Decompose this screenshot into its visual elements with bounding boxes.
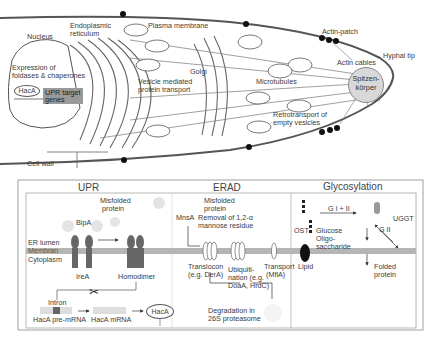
translocon-label-2: (e.g. DerA) (188, 271, 223, 279)
ost-label: OST (294, 227, 309, 235)
membrane-band (26, 248, 416, 254)
intron-label: Intron (48, 299, 66, 307)
nucleus-outline (8, 40, 80, 128)
degradation-label-2: 26S proteasome (208, 315, 261, 323)
actin-cables-label: Actin cables (337, 59, 376, 67)
g2-label: G II (379, 226, 391, 234)
removal-label-2: mannose residue (198, 222, 253, 230)
nucleus-label: Nucleus (27, 33, 53, 41)
er-label-2: reticulum (70, 30, 99, 38)
upr-target-genes-box: UPR target genes (43, 88, 83, 104)
upr-title: UPR (78, 182, 99, 193)
haca-pre-mrna-label: HacA pre-mRNA (33, 316, 86, 324)
oligosaccharide-label-2: saccharide (316, 243, 351, 251)
plasma-membrane-label: Plasma membrane (148, 22, 208, 30)
spitz-label-2: körper (349, 83, 383, 92)
upr-target-label-2: genes (45, 96, 81, 103)
glycosylation-title: Glycosylation (323, 181, 382, 192)
golgi-outline (194, 36, 227, 136)
actin-patch-label: Actin-patch (322, 28, 358, 36)
spitzenkoerper: Spitzen- körper (348, 67, 384, 103)
diagram-artwork: ✂ (0, 0, 432, 340)
haca-nucleus-oval: HacA (14, 85, 40, 97)
lipid-label: Lipid (298, 263, 313, 271)
cell-wall-label: Cell wall (27, 160, 54, 168)
g1g2-label: G I + II (328, 205, 350, 213)
golgi-label: Golgi (190, 68, 207, 76)
expression-label-2: foldases & chaperones (12, 72, 85, 80)
uggt-label: UGGT (393, 215, 414, 223)
irea-label: IreA (76, 273, 89, 281)
scissors-icon: ✂ (89, 285, 99, 299)
mnsa-label: MnsA (176, 214, 194, 222)
vesicle-label-2: protein transport (138, 86, 190, 94)
hyphal-tip-label: Hyphal tip (383, 52, 415, 60)
membran-label: Membran (28, 247, 58, 255)
spitz-label-1: Spitzen- (349, 74, 383, 83)
microtubules-label: Microtubules (256, 78, 297, 86)
haca-protein-oval: HacA (146, 304, 174, 319)
retrotransport-label-2: empty vesicles (273, 119, 320, 127)
erad-misfolded-2: protein (204, 205, 226, 213)
transport-label-2: (MflA) (266, 271, 285, 279)
bipa-label: BipA (76, 219, 91, 227)
homodimer-label: Homodimer (118, 273, 155, 281)
erad-title: ERAD (213, 182, 241, 193)
upr-misfolded-2: protein (102, 205, 124, 213)
lipid (300, 244, 310, 262)
folded-protein-label-2: protein (374, 271, 396, 279)
cytoplasm-label: Cytoplasm (28, 256, 62, 264)
ubiquitination-label-3: DoaA, HrdC) (228, 282, 269, 290)
haca-mrna-label: HacA mRNA (91, 316, 131, 324)
